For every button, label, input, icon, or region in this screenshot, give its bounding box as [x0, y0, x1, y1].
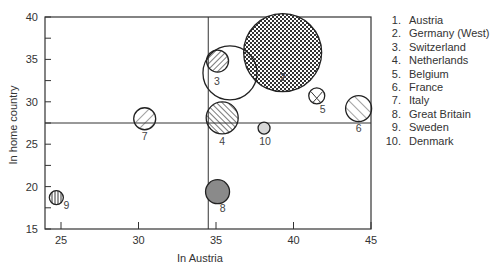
legend-item-label: France [409, 81, 443, 94]
legend-item-number: 7. [382, 94, 401, 107]
legend-item-number: 3. [382, 41, 401, 54]
legend-item-label: Denmark [409, 135, 454, 148]
legend-item-number: 2. [382, 27, 401, 40]
bubble-austria[interactable] [207, 50, 229, 72]
legend-item-label: Great Britain [409, 108, 471, 121]
y-tick-label: 30 [26, 96, 38, 108]
legend-item: 9.Sweden [382, 121, 489, 134]
x-tick-label: 40 [287, 234, 299, 246]
legend-item-number: 8. [382, 108, 401, 121]
y-tick-label: 20 [26, 181, 38, 193]
y-tick-label: 40 [26, 11, 38, 23]
point-label: 3 [214, 75, 220, 87]
point-label: 7 [142, 130, 148, 142]
legend-item-label: Italy [409, 94, 429, 107]
legend-item-number: 1. [382, 14, 401, 27]
bubble-sweden[interactable] [49, 191, 63, 205]
x-tick-label: 35 [210, 234, 222, 246]
legend-item-number: 9. [382, 121, 401, 134]
legend-item-label: Sweden [409, 121, 449, 134]
legend-item: 4.Netherlands [382, 54, 489, 67]
legend-item: 7.Italy [382, 94, 489, 107]
legend-item-number: 6. [382, 81, 401, 94]
legend-item: 3.Switzerland [382, 41, 489, 54]
point-label: 2 [280, 71, 286, 83]
bubble-italy[interactable] [134, 108, 156, 130]
y-tick-label: 15 [26, 223, 38, 235]
point-label: 10 [259, 135, 271, 147]
legend-item-label: Netherlands [409, 54, 468, 67]
legend-item-number: 10. [382, 135, 401, 148]
legend-item: 2.Germany (West) [382, 27, 489, 40]
legend-item-label: Switzerland [409, 41, 466, 54]
legend-item: 6.France [382, 81, 489, 94]
legend-item: 8.Great Britain [382, 108, 489, 121]
point-label: 6 [356, 122, 362, 134]
x-tick-label: 25 [55, 234, 67, 246]
bubble-france[interactable] [346, 96, 372, 122]
point-label: 9 [63, 199, 69, 211]
bubble-belgium[interactable] [309, 88, 325, 104]
bubble-netherlands[interactable] [206, 102, 238, 134]
bubble-great-britain[interactable] [206, 180, 230, 204]
legend: 1.Austria2.Germany (West)3.Switzerland4.… [382, 14, 489, 148]
legend-item: 5.Belgium [382, 68, 489, 81]
legend-item: 1.Austria [382, 14, 489, 27]
y-tick-label: 25 [26, 138, 38, 150]
point-label: 4 [219, 135, 225, 147]
legend-item: 10.Denmark [382, 135, 489, 148]
point-label: 5 [320, 103, 326, 115]
x-axis-title: In Austria [177, 252, 224, 264]
legend-item-number: 4. [382, 54, 401, 67]
bubble-denmark[interactable] [258, 122, 270, 134]
x-tick-label: 45 [365, 234, 377, 246]
legend-item-label: Belgium [409, 68, 449, 81]
point-label: 8 [220, 202, 226, 214]
x-tick-label: 30 [132, 234, 144, 246]
legend-item-number: 5. [382, 68, 401, 81]
y-axis-title: In home country [7, 85, 19, 164]
plot-area: 1520253035402530354045In AustriaIn home … [7, 11, 377, 264]
legend-item-label: Austria [409, 14, 443, 27]
y-tick-label: 35 [26, 53, 38, 65]
legend-item-label: Germany (West) [409, 27, 489, 40]
